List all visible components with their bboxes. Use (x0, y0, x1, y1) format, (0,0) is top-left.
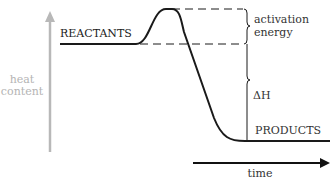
activation-label-line1: activation (254, 13, 309, 26)
heat-content-axis (45, 11, 55, 152)
time-arrowhead-icon (320, 158, 330, 168)
energy-diagram: heat content activation energy ΔH REACTA… (0, 0, 330, 179)
energy-brace (244, 9, 250, 141)
products-label: PRODUCTS (255, 124, 321, 137)
axis-arrowhead-icon (45, 11, 55, 22)
delta-h-label: ΔH (253, 89, 271, 102)
reactants-label: REACTANTS (60, 27, 132, 40)
y-axis-label-content: content (1, 85, 44, 98)
x-axis-label-time: time (248, 167, 273, 179)
activation-label-line2: energy (254, 26, 293, 39)
